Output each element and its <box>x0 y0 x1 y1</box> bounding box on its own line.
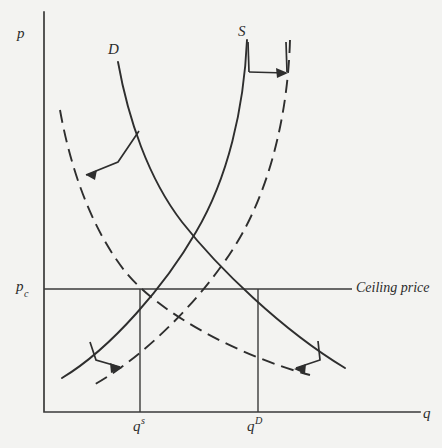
demand-shift-lower-arrowhead <box>294 364 306 374</box>
axes <box>44 12 420 412</box>
demand-curve-label: D <box>108 42 119 57</box>
supply-curve-label: S <box>238 24 246 39</box>
ceiling-price-annotation: Ceiling price <box>356 281 430 295</box>
y-axis-label: p <box>17 26 25 41</box>
quantity-demanded-label: qD <box>247 417 262 434</box>
price-ceiling-diagram: p q pc qs qD D S Ceiling price <box>0 0 442 448</box>
supply-shifted-curve <box>90 40 290 387</box>
ceiling-price-axis-label: pc <box>16 279 28 297</box>
diagram-canvas <box>0 0 442 448</box>
demand-shift-lower-arrow <box>296 341 320 368</box>
supply-origin-stub <box>248 42 249 72</box>
demand-shifted-curve <box>60 110 310 375</box>
demand-original-curve <box>118 62 345 368</box>
supply-shifted-stub <box>286 42 287 72</box>
demand-shift-upper-arrowhead <box>86 170 97 180</box>
ceiling-price-axis-label-base: p <box>16 278 24 294</box>
quantity-supplied-label-superscript: s <box>141 415 145 426</box>
quantity-supplied-label-base: q <box>133 418 141 434</box>
demand-shift-upper-arrow <box>86 131 139 175</box>
ceiling-price-axis-label-subscript: c <box>24 288 29 299</box>
x-axis-label: q <box>423 406 431 421</box>
quantity-supplied-label: qs <box>133 417 144 434</box>
quantity-demanded-label-superscript: D <box>255 415 262 426</box>
quantity-demanded-label-base: q <box>247 418 255 434</box>
